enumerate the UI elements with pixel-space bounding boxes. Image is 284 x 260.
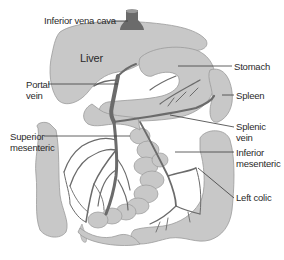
transverse-colon <box>78 228 140 246</box>
label-portal-vein-line1: Portal <box>26 79 50 90</box>
label-superior-mesenteric-line1: Superior <box>10 131 44 142</box>
label-spleen: Spleen <box>236 90 264 101</box>
label-inferior-vena-cava: Inferior vena cava <box>44 15 116 26</box>
label-liver: Liver <box>80 53 103 64</box>
label-splenic-vein-line1: Splenic <box>236 121 266 132</box>
small-intestine <box>88 128 168 228</box>
label-portal-vein-line2: vein <box>26 90 43 101</box>
label-left-colic: Left colic <box>236 192 272 203</box>
label-stomach: Stomach <box>234 61 270 72</box>
label-inferior-mesenteric-line2: mesenteric <box>236 158 280 169</box>
spleen <box>209 69 233 122</box>
label-inferior-mesenteric-line1: Inferior <box>236 147 264 158</box>
label-splenic-vein-line2: vein <box>236 132 253 143</box>
label-superior-mesenteric-line2: mesenteric <box>10 142 54 153</box>
